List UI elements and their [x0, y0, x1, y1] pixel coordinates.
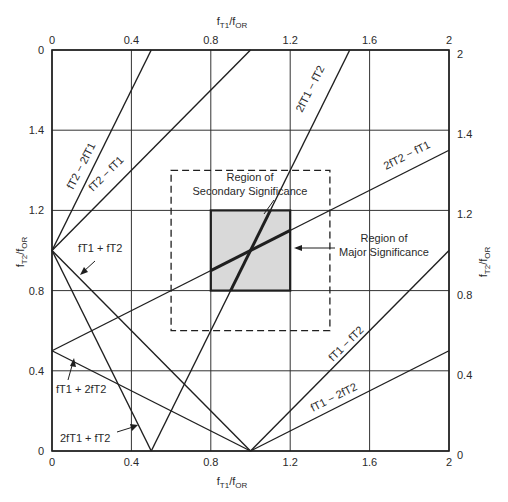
label-fT1-plus-fT2: fT1 + fT2 [78, 242, 122, 254]
right-tick-label: 0.4 [457, 369, 472, 381]
label-2fT1-plus-fT2: 2fT1 + fT2 [60, 432, 110, 444]
intermodulation-diagram: 000.40.40.80.81.21.21.61.622000.40.40.80… [0, 0, 508, 502]
bottom-axis-title: fT1/fOR [217, 475, 248, 490]
top-tick-label: 1.6 [362, 34, 377, 46]
top-tick-label: 0 [49, 34, 55, 46]
major-region-label-line2: Major Significance [339, 246, 429, 258]
label-fT2-minus-fT1: fT2 − fT1 [86, 154, 126, 194]
bottom-tick-label: 1.2 [283, 456, 298, 468]
left-tick-label: 0.4 [29, 365, 44, 377]
left-tick-label: 0.8 [29, 285, 44, 297]
line-fT2-2fT1 [52, 50, 151, 251]
right-tick-label: 0 [457, 449, 463, 461]
secondary-region-label-line2: Secondary Significance [193, 185, 308, 197]
left-tick-label: 0 [38, 445, 44, 457]
label-fT1-minus-fT2: fT1 − fT2 [326, 324, 366, 364]
left-tick-label: 1.4 [29, 124, 44, 136]
bottom-tick-label: 0 [49, 456, 55, 468]
major-region-arrow [294, 245, 335, 251]
bottom-tick-label: 2 [446, 456, 452, 468]
major-region-label-line1: Region of [360, 232, 408, 244]
top-tick-label: 0.4 [124, 34, 139, 46]
left-tick-label: 0 [38, 44, 44, 56]
label-2fT2-minus-fT1: 2fT2 − fT1 [381, 138, 431, 172]
right-tick-label: 1.2 [457, 208, 472, 220]
right-tick-label: 2 [457, 48, 463, 60]
left-axis-title: fT2/fOR [14, 237, 29, 268]
top-tick-label: 0.8 [203, 34, 218, 46]
bottom-tick-label: 0.4 [124, 456, 139, 468]
secondary-region-label-line1: Region of [226, 171, 274, 183]
right-tick-label: 1.4 [457, 128, 472, 140]
bottom-tick-label: 1.6 [362, 456, 377, 468]
label-fT1-plus-2fT2: fT1 + 2fT2 [56, 383, 106, 395]
top-tick-label: 1.2 [283, 34, 298, 46]
top-tick-label: 2 [446, 34, 452, 46]
right-axis-title: fT2/fOR [477, 247, 492, 278]
line-fT1-2fT2 [251, 351, 450, 451]
line-2fT1fT2 [52, 251, 151, 452]
arrow-fT1-plus-fT2 [80, 261, 95, 275]
arrow-2fT1-plus-fT2 [117, 424, 138, 432]
top-axis-title: fT1/fOR [217, 15, 248, 30]
right-tick-label: 0.8 [457, 289, 472, 301]
bottom-tick-label: 0.8 [203, 456, 218, 468]
left-tick-label: 1.2 [29, 204, 44, 216]
